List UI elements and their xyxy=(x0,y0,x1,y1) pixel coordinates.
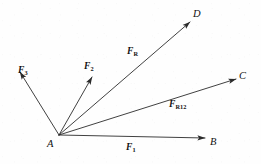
force-label-fr-main: F xyxy=(127,46,133,56)
vector-line-fr12 xyxy=(59,79,236,135)
vector-line-f3 xyxy=(20,72,59,135)
force-label-f2-sub: 2 xyxy=(91,65,94,72)
force-label-fr12-main: F xyxy=(169,99,175,109)
force-label-f2: F2 xyxy=(84,62,94,72)
point-label-d-text: D xyxy=(193,8,201,19)
point-label-a: A xyxy=(47,139,53,150)
point-label-b-text: B xyxy=(210,136,216,147)
force-label-f2-main: F xyxy=(84,61,90,71)
point-label-a-text: A xyxy=(47,138,53,149)
vector-line-fr xyxy=(59,22,190,135)
vector-line-f1 xyxy=(59,135,205,138)
force-vector-diagram: A F1 F2 F3 FR FR12 B D C xyxy=(0,0,261,164)
vector-canvas xyxy=(0,0,261,164)
point-label-c-text: C xyxy=(239,70,246,81)
force-label-f3: F3 xyxy=(18,66,28,76)
point-label-b: B xyxy=(210,137,216,148)
force-label-fr12-sub: R12 xyxy=(176,103,187,110)
force-label-f1: F1 xyxy=(126,143,136,153)
force-label-fr-sub: R xyxy=(134,50,139,57)
force-label-f3-main: F xyxy=(18,65,24,75)
point-label-d: D xyxy=(193,9,201,20)
force-label-fr: FR xyxy=(127,47,138,57)
force-label-f1-sub: 1 xyxy=(133,146,136,153)
force-label-f3-sub: 3 xyxy=(25,69,28,76)
force-label-f1-main: F xyxy=(126,142,132,152)
force-label-fr12: FR12 xyxy=(169,100,186,110)
point-label-c: C xyxy=(239,71,246,82)
